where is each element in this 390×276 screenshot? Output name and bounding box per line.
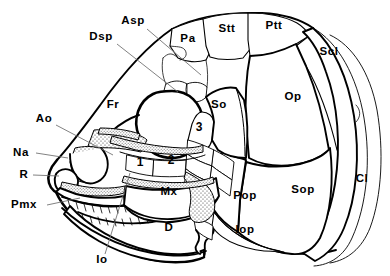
skull-diagram-figure: AspDspPaSttPttSclFrSoOpAo3NaR12ClSopPopM… <box>0 0 390 276</box>
bone-label-ptt: Ptt <box>265 19 282 31</box>
bone-label-3: 3 <box>196 120 203 134</box>
bone-label-d: D <box>165 221 174 233</box>
bone-label-pmx: Pmx <box>11 198 37 210</box>
mandible-rear-hook <box>196 230 200 254</box>
bone-label-iop: Iop <box>235 223 254 235</box>
bone-label-so: So <box>211 98 227 110</box>
bone-label-pa: Pa <box>180 32 195 44</box>
bone-label-ao: Ao <box>36 112 53 124</box>
bone-label-asp: Asp <box>121 14 145 26</box>
bone-label-pop: Pop <box>233 189 257 201</box>
bone-label-scl: Scl <box>319 45 338 57</box>
bone-label-mx: Mx <box>160 185 177 197</box>
sphenotic-roof-link-2 <box>206 60 208 87</box>
skull-diagram-canvas: AspDspPaSttPttSclFrSoOpAo3NaR12ClSopPopM… <box>0 0 390 276</box>
bone-label-dsp: Dsp <box>89 30 113 42</box>
bone-label-na: Na <box>13 146 29 158</box>
bone-label-1: 1 <box>137 155 144 169</box>
bone-label-fr: Fr <box>107 98 120 110</box>
bone-label-sop: Sop <box>291 183 315 195</box>
bone-label-stt: Stt <box>218 22 235 34</box>
orbit-region-group <box>88 58 247 196</box>
bone-label-2: 2 <box>168 153 175 167</box>
bone-label-cl: Cl <box>356 172 369 184</box>
bone-label-op: Op <box>284 90 301 102</box>
supratemporal-bone <box>203 13 252 59</box>
bone-label-io: Io <box>96 253 107 265</box>
bone-label-r: R <box>20 168 29 180</box>
